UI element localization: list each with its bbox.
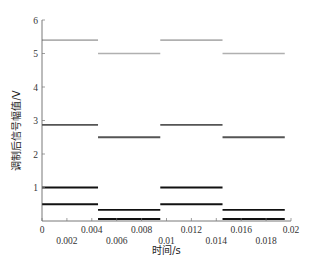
y-axis-ticks: 123456: [33, 16, 45, 194]
y-tick-label: 4: [33, 83, 38, 93]
series-signal-2: [42, 125, 285, 137]
series-layer: [42, 40, 285, 219]
y-tick-label: 1: [33, 183, 38, 193]
x-tick-label: 0.002: [56, 236, 78, 246]
step-signal-chart: 123456 00.0020.0040.0060.0080.010.0120.0…: [0, 0, 315, 266]
y-tick-label: 2: [33, 150, 38, 160]
x-tick-label: 0.018: [255, 236, 277, 246]
y-axis-title: 调制后信号幅值/V: [10, 90, 22, 170]
x-tick-label: 0.008: [131, 225, 153, 235]
series-signal-1: [42, 40, 285, 53]
x-tick-label: 0.016: [231, 225, 253, 235]
y-tick-label: 6: [33, 16, 38, 26]
x-tick-label: 0.014: [206, 236, 228, 246]
series-signal-4: [42, 204, 285, 210]
y-tick-label: 3: [33, 116, 38, 126]
x-tick-label: 0.012: [181, 225, 203, 235]
x-axis-ticks: 00.0020.0040.0060.0080.010.0120.0140.016…: [40, 218, 300, 246]
x-tick-label: 0: [40, 225, 45, 235]
series-signal-3: [42, 188, 285, 219]
x-tick-label: 0.02: [283, 225, 300, 235]
x-axis-title: 时间/s: [152, 244, 181, 256]
x-tick-label: 0.006: [106, 236, 128, 246]
y-tick-label: 5: [33, 49, 38, 59]
x-tick-label: 0.004: [81, 225, 103, 235]
